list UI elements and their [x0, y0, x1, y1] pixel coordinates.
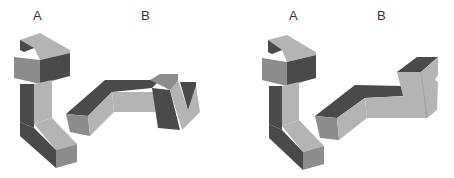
shape-b	[0, 0, 227, 178]
panel-left: A B	[0, 0, 227, 178]
panel-right: A B	[227, 0, 454, 178]
shape-b	[227, 0, 454, 178]
